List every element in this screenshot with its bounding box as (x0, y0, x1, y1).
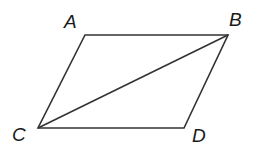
vertex-label-d: D (192, 125, 206, 146)
vertex-label-c: C (12, 124, 26, 145)
diagonal-cb (38, 35, 228, 128)
vertex-label-b: B (229, 9, 242, 30)
parallelogram-diagram: A B C D (0, 0, 259, 147)
vertex-label-a: A (63, 11, 77, 32)
